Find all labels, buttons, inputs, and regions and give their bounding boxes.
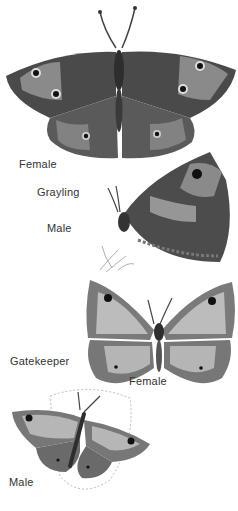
gatekeeper-species-label: Gatekeeper [10,355,69,367]
grayling-female-label: Female [19,158,57,170]
gatekeeper-male-illustration [12,389,150,489]
butterfly-plate: Female Grayling Male Gatekeeper Female M… [0,0,238,511]
grayling-female-illustration [6,6,236,158]
grayling-species-label: Grayling [37,186,80,198]
illustrations [0,0,238,511]
gatekeeper-male-label: Male [9,476,34,488]
grayling-male-label: Male [47,222,72,234]
gatekeeper-female-label: Female [129,375,167,387]
grayling-male-illustration [100,152,230,272]
gatekeeper-female-illustration [86,280,235,383]
